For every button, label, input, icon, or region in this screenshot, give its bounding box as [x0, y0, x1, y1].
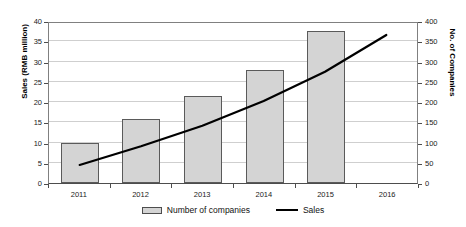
right-axis-tick-label: 400: [425, 18, 438, 26]
right-axis-tick-label: 50: [425, 160, 433, 168]
right-axis-tick-label: 100: [425, 140, 438, 148]
legend-item-number-of-companies: Number of companies: [142, 205, 250, 215]
right-axis-tick-label: 0: [425, 180, 429, 188]
category-axis-tick-mark: [418, 184, 419, 188]
right-axis-tick-label: 300: [425, 59, 438, 67]
legend-label-sales: Sales: [303, 205, 324, 215]
sales-line-path: [80, 35, 387, 165]
right-axis-tick-label: 150: [425, 119, 438, 127]
category-axis-tick-mark: [171, 184, 172, 188]
category-label-2014: 2014: [233, 190, 295, 199]
chart-legend: Number of companies Sales: [0, 205, 466, 215]
right-axis-tick-label: 200: [425, 99, 438, 107]
legend-item-sales: Sales: [276, 205, 324, 215]
category-label-2011: 2011: [48, 190, 110, 199]
right-axis-tick-label: 250: [425, 79, 438, 87]
right-axis-tick-label: 350: [425, 38, 438, 46]
category-axis-tick-mark: [295, 184, 296, 188]
left-axis-tick-label: 0: [0, 180, 42, 188]
category-label-2012: 2012: [110, 190, 172, 199]
category-label-2016: 2016: [356, 190, 418, 199]
line-swatch-icon: [276, 209, 298, 211]
plot-area: [48, 22, 418, 184]
legend-label-number-of-companies: Number of companies: [167, 205, 250, 215]
category-axis-tick-mark: [233, 184, 234, 188]
category-label-2015: 2015: [295, 190, 357, 199]
left-axis-tick-label: 10: [0, 140, 42, 148]
category-label-2013: 2013: [171, 190, 233, 199]
left-axis-title: Sales (RMB million): [20, 0, 29, 127]
right-axis-title: No. of Companies: [448, 0, 457, 128]
left-axis-tick-label: 5: [0, 160, 42, 168]
category-axis-tick-mark: [110, 184, 111, 188]
combo-chart: 0510152025303540 05010015020025030035040…: [0, 0, 466, 227]
category-axis-tick-mark: [356, 184, 357, 188]
category-axis-tick-mark: [48, 184, 49, 188]
bar-swatch-icon: [142, 207, 162, 214]
line-series-sales: [49, 23, 417, 183]
